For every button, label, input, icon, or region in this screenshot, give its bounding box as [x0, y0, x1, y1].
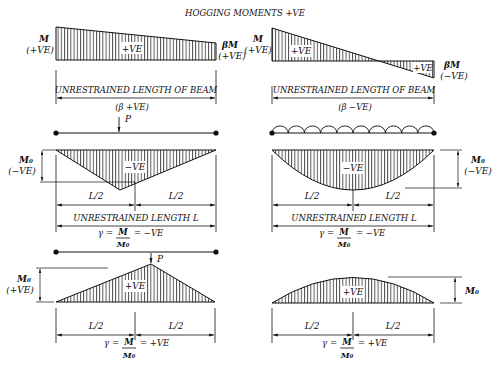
panel-udl-positive: +VE M₀ L/2 L/2 γ = M M₀ = +VE — [272, 277, 479, 360]
span-label: UNRESTRAINED LENGTH OF BEAM — [55, 85, 218, 95]
panel-point-load-negative: P −VE M₀ (−VE) L/2 L/2 UNRESTRAINED LENG… — [8, 114, 218, 249]
load-label: P — [156, 254, 164, 264]
half-span-right: L/2 — [385, 321, 401, 331]
gamma-denominator: M₀ — [340, 350, 354, 360]
gamma-numerator: M — [117, 227, 128, 237]
span-label: UNRESTRAINED LENGTH L — [291, 213, 417, 223]
region-label-1: +VE — [291, 46, 312, 56]
gamma-numerator: M — [123, 337, 134, 347]
moment-label: M₀ — [470, 155, 485, 165]
support-right — [213, 249, 218, 254]
half-span-left: L/2 — [88, 191, 104, 201]
diagram-title: HOGGING MOMENTS +VE — [184, 8, 306, 18]
distributed-load — [272, 126, 434, 133]
support-right — [431, 130, 436, 135]
half-span-right: L/2 — [168, 321, 184, 331]
moment-sign: (−VE) — [8, 166, 36, 176]
half-span-left: L/2 — [304, 191, 320, 201]
half-span-right: L/2 — [168, 191, 184, 201]
support-left — [53, 249, 58, 254]
gamma-denominator: M₀ — [337, 239, 351, 249]
gamma-numerator: M — [338, 227, 349, 237]
region-label: −VE — [343, 163, 364, 173]
moment-triangle-positive — [272, 28, 379, 61]
moment-label: M₀ — [16, 274, 31, 284]
moment-sign: (+VE) — [6, 285, 34, 295]
load-label: P — [124, 114, 132, 124]
support-left — [269, 130, 274, 135]
gamma-rhs: = −VE — [356, 228, 386, 238]
right-moment: βM — [221, 40, 239, 50]
half-span-right: L/2 — [385, 191, 401, 201]
half-span-left: L/2 — [304, 321, 320, 331]
left-sign: (+VE) — [26, 45, 54, 55]
gamma-lhs: γ = — [104, 338, 119, 348]
moment-label: M₀ — [18, 155, 33, 165]
gamma-denominator: M₀ — [122, 350, 136, 360]
case-label: (β +VE) — [115, 102, 149, 112]
region-label: +VE — [343, 287, 364, 297]
span-label: UNRESTRAINED LENGTH OF BEAM — [273, 85, 436, 95]
case-label: (β −VE) — [338, 102, 372, 112]
region-label: +VE — [125, 281, 146, 291]
region-label-2: +VE — [413, 63, 433, 73]
right-moment: βM — [443, 60, 461, 70]
region-label: −VE — [125, 162, 146, 172]
gamma-lhs: γ = — [98, 228, 113, 238]
right-sign: (−VE) — [440, 71, 468, 81]
left-sign: (+VE) — [244, 45, 272, 55]
gamma-denominator: M₀ — [116, 239, 130, 249]
support-left — [53, 130, 58, 135]
span-label: UNRESTRAINED LENGTH L — [73, 213, 199, 223]
panel-point-load-positive: P +VE M₀ (+VE) L/2 L/2 γ = M M₀ = +VE — [6, 249, 218, 360]
panel-uniform-gradient-positive: +VE M (+VE) βM (+VE) UNRESTRAINED LENGTH… — [26, 27, 246, 112]
support-right — [213, 130, 218, 135]
panel-reverse-curvature: +VE +VE M (+VE) βM (−VE) UNRESTRAINED LE… — [244, 28, 468, 112]
moment-diagrams: HOGGING MOMENTS +VE +VE M (+VE) βM (+VE)… — [0, 0, 497, 372]
gamma-rhs: = −VE — [134, 228, 164, 238]
gamma-rhs: = +VE — [140, 338, 170, 348]
panel-udl-negative: −VE M₀ (−VE) L/2 L/2 UNRESTRAINED LENGTH… — [269, 126, 492, 249]
right-sign: (+VE) — [218, 51, 246, 61]
gamma-lhs: γ = — [319, 228, 334, 238]
left-moment: M — [38, 34, 50, 44]
moment-sign: (−VE) — [464, 166, 492, 176]
moment-label: M₀ — [464, 286, 479, 296]
gamma-rhs: = +VE — [358, 338, 388, 348]
left-moment: M — [252, 34, 264, 44]
region-label: +VE — [122, 44, 143, 54]
half-span-left: L/2 — [88, 321, 104, 331]
gamma-lhs: γ = — [322, 338, 337, 348]
gamma-numerator: M — [341, 337, 352, 347]
